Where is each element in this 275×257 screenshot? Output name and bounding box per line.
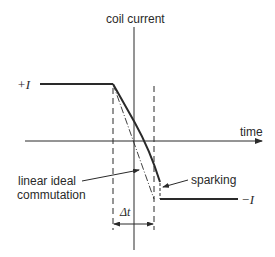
diagram-graphics [0, 0, 275, 257]
time-axis-label: time [240, 126, 263, 138]
linear-ideal-leader-arrow [82, 170, 139, 181]
sparking-label: sparking [191, 174, 236, 186]
commutation-diagram: coil current time +I −I linear ideal com… [0, 0, 275, 257]
linear-ideal-label-line1: linear ideal [18, 175, 76, 187]
positive-current-label: +I [17, 78, 30, 91]
linear-ideal-label-line2: commutation [17, 189, 86, 201]
actual-commutation-curve [113, 84, 160, 182]
sparking-leader-arrow [163, 180, 188, 187]
negative-current-label: −I [241, 193, 254, 206]
delta-t-label: Δt [120, 206, 130, 218]
vertical-axis-label: coil current [106, 13, 165, 25]
